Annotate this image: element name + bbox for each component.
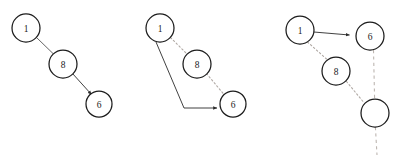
panel-1: 1 8 6 xyxy=(12,14,112,117)
graph-figure: 1 8 6 1 8 xyxy=(0,0,401,155)
node-1[interactable]: 1 xyxy=(286,16,314,44)
node-6[interactable]: 6 xyxy=(86,91,112,117)
node-8[interactable]: 8 xyxy=(49,50,77,78)
edge-1-to-6-arrow xyxy=(314,32,350,35)
node-label: 1 xyxy=(24,24,29,34)
node-6[interactable]: 6 xyxy=(356,22,384,50)
edge-1-to-8-dotted xyxy=(308,42,327,59)
node-label: 8 xyxy=(195,60,200,70)
edge-1-to-8 xyxy=(37,38,54,55)
node-label: 6 xyxy=(368,32,373,42)
node-label: 6 xyxy=(231,100,236,110)
node-circle[interactable] xyxy=(361,99,389,127)
edge-8-to-blank-dotted xyxy=(347,82,364,102)
node-label: 1 xyxy=(158,24,163,34)
edge-6-to-blank-dashed xyxy=(374,50,375,99)
graph-canvas: 1 8 6 1 8 xyxy=(0,0,401,155)
node-8[interactable]: 8 xyxy=(183,50,211,78)
node-1[interactable]: 1 xyxy=(146,14,174,42)
panel-2: 1 8 6 xyxy=(146,14,246,117)
edge-8-to-6-dotted xyxy=(207,74,225,95)
node-label: 8 xyxy=(334,67,339,77)
node-6[interactable]: 6 xyxy=(220,91,246,117)
node-label: 8 xyxy=(61,60,66,70)
panel-3: 1 6 8 xyxy=(286,16,389,155)
edge-blank-downward-dashed xyxy=(375,127,377,155)
node-label: 6 xyxy=(97,100,102,110)
node-1[interactable]: 1 xyxy=(12,14,40,42)
node-label: 1 xyxy=(298,26,303,36)
node-blank[interactable] xyxy=(361,99,389,127)
node-8[interactable]: 8 xyxy=(322,57,350,85)
edge-1-to-8-dotted xyxy=(171,38,188,55)
edge-8-to-6-arrow xyxy=(73,74,92,95)
